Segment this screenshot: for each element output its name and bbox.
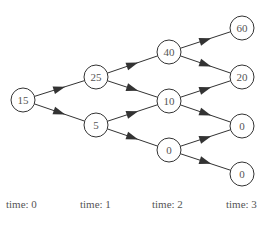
- time-label-3: time: 3: [226, 198, 257, 210]
- arrow-icon: [199, 108, 212, 116]
- node-value: 40: [157, 44, 181, 60]
- arrow-icon: [126, 83, 139, 91]
- arrow-icon: [126, 63, 139, 71]
- arrow-icon: [126, 111, 139, 119]
- node-value: 0: [230, 118, 254, 134]
- node-value: 20: [230, 69, 254, 85]
- arrow-icon: [199, 59, 212, 67]
- node-value: 10: [157, 93, 181, 109]
- arrow-icon: [53, 107, 66, 115]
- time-label-1: time: 1: [80, 198, 111, 210]
- time-label-0: time: 0: [6, 198, 37, 210]
- node-value: 0: [230, 166, 254, 182]
- arrow-icon: [199, 156, 212, 164]
- node-value: 60: [230, 20, 254, 36]
- node-value: 15: [11, 92, 35, 108]
- arrow-icon: [53, 86, 66, 94]
- time-label-2: time: 2: [152, 198, 183, 210]
- arrow-icon: [199, 38, 212, 46]
- node-value: 0: [157, 142, 181, 158]
- arrow-icon: [199, 136, 212, 144]
- node-value: 25: [84, 69, 108, 85]
- node-value: 5: [84, 117, 108, 133]
- arrow-icon: [199, 87, 212, 95]
- arrow-icon: [126, 132, 139, 140]
